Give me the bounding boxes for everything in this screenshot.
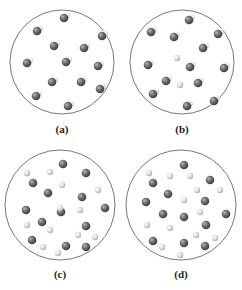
light-atom bbox=[59, 182, 65, 188]
light-atom bbox=[174, 55, 180, 61]
dark-atom bbox=[29, 179, 38, 188]
dark-atom bbox=[44, 189, 53, 198]
dark-atom bbox=[60, 14, 69, 23]
panel-label-b: (b) bbox=[162, 123, 202, 135]
light-atom bbox=[24, 222, 30, 228]
light-atom bbox=[159, 244, 165, 250]
diatomic-molecule bbox=[170, 31, 180, 41]
dark-atom bbox=[48, 78, 57, 87]
diatomic-molecule bbox=[214, 28, 224, 38]
light-atom bbox=[197, 209, 203, 215]
diatomic-molecule bbox=[144, 59, 154, 69]
dark-atom bbox=[180, 239, 189, 248]
dark-atom bbox=[64, 102, 73, 111]
diatomic-molecule bbox=[194, 77, 204, 87]
light-atom bbox=[187, 173, 193, 179]
dark-atom bbox=[222, 210, 231, 219]
light-atom bbox=[144, 222, 150, 228]
dark-atom bbox=[201, 242, 210, 251]
dark-atom bbox=[38, 218, 47, 227]
dark-atom bbox=[194, 79, 203, 88]
dark-atom bbox=[147, 28, 156, 37]
dark-atom bbox=[180, 213, 189, 222]
light-atom bbox=[47, 227, 53, 233]
diatomic-molecule bbox=[23, 57, 33, 67]
dark-atom bbox=[170, 33, 179, 42]
dark-atom bbox=[199, 44, 208, 53]
light-atom bbox=[47, 169, 53, 175]
dark-atom bbox=[162, 77, 171, 86]
dark-atom bbox=[149, 237, 158, 246]
diatomic-molecule bbox=[62, 56, 72, 66]
dark-atom bbox=[78, 193, 87, 202]
diatomic-molecule bbox=[32, 90, 42, 100]
diatomic-molecule bbox=[98, 30, 108, 40]
panel-b bbox=[130, 10, 234, 114]
dark-atom bbox=[159, 210, 168, 219]
light-atom bbox=[177, 82, 183, 88]
diatomic-molecule bbox=[210, 95, 220, 105]
dark-atom bbox=[206, 176, 215, 185]
diatomic-molecule bbox=[220, 62, 230, 72]
light-atom bbox=[212, 235, 218, 241]
light-atom bbox=[75, 232, 81, 238]
light-atom bbox=[193, 232, 199, 238]
light-atom bbox=[57, 205, 63, 211]
panel-a bbox=[10, 10, 114, 114]
dark-atom bbox=[82, 222, 91, 231]
dark-atom bbox=[202, 221, 211, 230]
diatomic-molecule bbox=[147, 26, 157, 36]
diatomic-molecule bbox=[50, 40, 60, 50]
diatomic-molecule bbox=[94, 60, 104, 70]
light-atom bbox=[92, 234, 98, 240]
light-atom bbox=[95, 187, 101, 193]
light-atom bbox=[77, 207, 83, 213]
dark-atom bbox=[101, 204, 110, 213]
panel-c bbox=[5, 150, 115, 260]
light-atom bbox=[181, 197, 187, 203]
dark-atom bbox=[214, 30, 223, 39]
dark-atom bbox=[142, 198, 151, 207]
diatomic-molecule bbox=[162, 75, 172, 85]
dark-atom bbox=[50, 42, 59, 51]
dark-atom bbox=[183, 102, 192, 111]
panel-label-d: (d) bbox=[161, 268, 201, 280]
light-atom bbox=[40, 244, 46, 250]
diatomic-molecule bbox=[185, 14, 195, 24]
dark-atom bbox=[94, 62, 103, 71]
dark-atom bbox=[186, 63, 195, 72]
dark-atom bbox=[210, 97, 219, 106]
dark-atom bbox=[98, 32, 107, 41]
dark-atom bbox=[180, 161, 189, 170]
dark-atom bbox=[28, 236, 37, 245]
dark-atom bbox=[149, 179, 158, 188]
light-atom bbox=[194, 187, 200, 193]
diatomic-molecule bbox=[80, 42, 90, 52]
dark-atom bbox=[62, 242, 71, 251]
dark-atom bbox=[220, 64, 229, 73]
dark-atom bbox=[144, 61, 153, 70]
dark-atom bbox=[32, 92, 41, 101]
diatomic-molecule bbox=[33, 25, 43, 35]
dark-atom bbox=[149, 90, 158, 99]
dark-atom bbox=[59, 160, 68, 169]
light-atom bbox=[55, 250, 61, 256]
panel-d bbox=[126, 150, 236, 260]
diatomic-molecule bbox=[186, 61, 196, 71]
diatomic-molecule bbox=[64, 100, 74, 110]
dark-atom bbox=[164, 190, 173, 199]
dark-atom bbox=[80, 44, 89, 53]
diatomic-molecule bbox=[199, 42, 209, 52]
dark-atom bbox=[77, 78, 86, 87]
panel-label-c: (c) bbox=[40, 268, 80, 280]
light-atom bbox=[217, 187, 223, 193]
dark-atom bbox=[33, 27, 42, 36]
dark-atom bbox=[22, 206, 31, 215]
light-atom bbox=[146, 170, 152, 176]
light-atom bbox=[167, 225, 173, 231]
dark-atom bbox=[185, 16, 194, 25]
light-atom bbox=[167, 173, 173, 179]
particle-diagram bbox=[0, 0, 242, 290]
dark-atom bbox=[62, 58, 71, 67]
diatomic-molecule bbox=[149, 88, 159, 98]
